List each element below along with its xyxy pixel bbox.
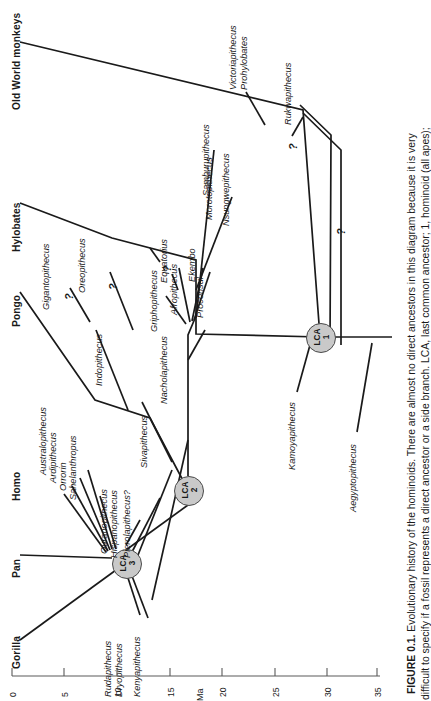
axis-tick-label-15: 15 xyxy=(167,687,176,697)
axis-tick-label-35: 35 xyxy=(374,687,383,697)
caption-line-2: difficult to specify if a fossil represe… xyxy=(421,127,431,700)
axis-title: Ma xyxy=(196,688,205,701)
axis-tick-label-25: 25 xyxy=(272,687,281,697)
axis-tick-label-30: 30 xyxy=(324,687,333,697)
time-axis xyxy=(0,0,393,701)
caption-text-2: difficult to specify if a fossil represe… xyxy=(420,127,431,700)
figure-caption: FIGURE 0.1. Evolutionary history of the … xyxy=(393,0,429,701)
cladogram-figure: LCA 1 LCA 2 LCA 3 Gorilla Pan Homo Pongo… xyxy=(0,0,393,701)
caption-text-1: Evolutionary history of the hominoids. T… xyxy=(406,133,417,631)
figure-number: FIGURE 0.1. xyxy=(406,635,417,694)
caption-line-1: FIGURE 0.1. Evolutionary history of the … xyxy=(407,133,417,694)
axis-tick-label-5: 5 xyxy=(61,692,70,697)
axis-tick-label-0: 0 xyxy=(9,692,18,697)
axis-tick-label-10: 10 xyxy=(114,687,123,697)
axis-tick-label-20: 20 xyxy=(219,687,228,697)
